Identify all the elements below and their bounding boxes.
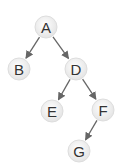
node-E: E: [41, 100, 63, 122]
edge-D-E: [58, 79, 70, 99]
node-D: D: [65, 58, 87, 80]
node-F: F: [92, 99, 114, 121]
edge-D-F: [83, 79, 96, 99]
node-A: A: [35, 16, 57, 38]
edge-A-D: [53, 37, 68, 59]
node-G: G: [68, 140, 90, 162]
node-label: D: [71, 61, 82, 78]
node-label: G: [73, 143, 85, 160]
edges: [26, 37, 97, 140]
node-B: B: [8, 58, 30, 80]
node-label: E: [47, 103, 57, 120]
node-label: F: [98, 102, 107, 119]
edge-F-G: [86, 120, 97, 139]
tree-diagram: ABDEFG: [0, 0, 121, 166]
nodes: ABDEFG: [8, 16, 114, 162]
edge-A-B: [26, 37, 39, 58]
node-label: B: [14, 61, 24, 78]
node-label: A: [41, 19, 51, 36]
